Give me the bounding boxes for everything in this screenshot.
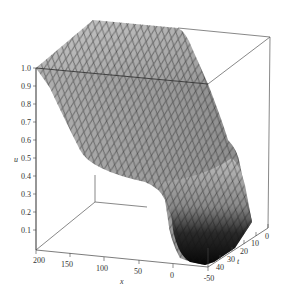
x-tick: 150 bbox=[61, 260, 73, 269]
u-tick: 0.6 bbox=[21, 136, 31, 145]
u-tick: 0.9 bbox=[21, 82, 31, 91]
u-tick: 0.1 bbox=[21, 226, 31, 235]
u-axis-label: u bbox=[14, 155, 18, 164]
u-tick: 0.5 bbox=[21, 154, 31, 163]
t-axis-label: t bbox=[237, 257, 240, 266]
surface-plot: 0.1 0.2 0.3 0.4 0.5 0.6 0.7 0.8 0.9 1.0 … bbox=[0, 0, 283, 302]
bounding-box-back bbox=[36, 175, 147, 250]
u-axis: 0.1 0.2 0.3 0.4 0.5 0.6 0.7 0.8 0.9 1.0 … bbox=[14, 64, 36, 250]
x-tick: 200 bbox=[33, 256, 45, 265]
x-axis-label: x bbox=[119, 277, 124, 286]
u-tick: 0.2 bbox=[21, 208, 31, 217]
surface bbox=[36, 20, 252, 265]
x-tick: -50 bbox=[204, 274, 215, 283]
x-tick: 100 bbox=[96, 264, 108, 273]
t-tick: 40 bbox=[216, 263, 224, 272]
t-tick: 0 bbox=[265, 232, 269, 241]
x-tick: 0 bbox=[170, 271, 174, 280]
t-tick: 30 bbox=[227, 255, 235, 264]
x-tick: 50 bbox=[134, 267, 142, 276]
u-tick: 0.4 bbox=[21, 172, 31, 181]
t-tick: 20 bbox=[240, 247, 248, 256]
u-tick: 0.7 bbox=[21, 118, 31, 127]
u-tick: 1.0 bbox=[21, 64, 31, 73]
t-tick: 10 bbox=[251, 239, 259, 248]
u-tick: 0.3 bbox=[21, 190, 31, 199]
u-tick: 0.8 bbox=[21, 100, 31, 109]
